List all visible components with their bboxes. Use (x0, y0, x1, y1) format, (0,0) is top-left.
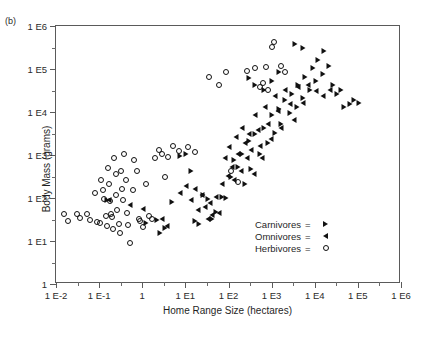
data-point-herbivores (125, 222, 131, 228)
data-point-herbivores (127, 240, 133, 246)
data-point-herbivores (106, 181, 112, 187)
x-axis-tick (315, 282, 316, 288)
data-point-carnivores (266, 140, 271, 146)
data-point-herbivores (165, 154, 171, 160)
data-point-herbivores (149, 216, 155, 222)
data-point-omnivores (184, 183, 189, 189)
data-point-carnivores (155, 217, 160, 223)
data-point-carnivores (293, 41, 298, 47)
data-point-herbivores (123, 177, 129, 183)
data-point-carnivores (294, 104, 299, 110)
x-axis-tick-label: 1 E3 (262, 290, 282, 301)
data-point-carnivores (273, 130, 278, 136)
data-point-herbivores (263, 64, 269, 70)
data-point-carnivores (197, 221, 202, 227)
x-axis-tick-label: 1 E6 (391, 290, 411, 301)
legend-equals-sign: = (305, 231, 311, 242)
data-point-carnivores (320, 71, 325, 77)
y-axis-tick-label: 1 (42, 279, 47, 290)
data-point-omnivores (313, 88, 318, 94)
data-point-herbivores (192, 149, 198, 155)
y-axis-minor-tick (52, 48, 56, 49)
data-point-carnivores (300, 45, 305, 51)
open-circle-icon (323, 245, 329, 251)
x-axis-minor-tick (207, 282, 208, 286)
y-axis-tick (50, 26, 56, 27)
legend-entry-label: Herbivores (255, 243, 301, 254)
data-point-herbivores (92, 190, 98, 196)
data-point-omnivores (192, 186, 197, 192)
data-point-omnivores (202, 204, 207, 210)
data-point-omnivores (320, 93, 325, 99)
y-axis-minor-tick (52, 91, 56, 92)
data-point-carnivores (279, 121, 284, 127)
data-point-herbivores (206, 74, 212, 80)
data-point-omnivores (283, 87, 288, 93)
x-axis-minor-tick (78, 282, 79, 286)
data-point-herbivores (260, 80, 266, 86)
data-point-herbivores (271, 39, 277, 45)
data-point-carnivores (224, 195, 229, 201)
x-axis-tick (56, 282, 57, 288)
data-point-herbivores (97, 220, 103, 226)
x-axis-tick (99, 282, 100, 288)
data-point-omnivores (248, 147, 253, 153)
data-point-carnivores (257, 151, 262, 157)
x-axis-tick-label: 1 (140, 290, 145, 301)
data-point-herbivores (170, 143, 176, 149)
y-axis-title: Body Mass (grams) (41, 126, 52, 213)
data-point-omnivores (229, 164, 234, 170)
legend-entry-omnivores: Omnivores= (255, 230, 331, 242)
data-point-carnivores (248, 166, 253, 172)
data-point-carnivores (296, 82, 301, 88)
triangle-left-icon (323, 233, 328, 239)
data-point-herbivores (162, 174, 168, 180)
x-axis-tick-label: 1 E1 (176, 290, 196, 301)
data-point-carnivores (290, 91, 295, 97)
y-axis-tick (50, 112, 56, 113)
data-point-carnivores (210, 216, 215, 222)
legend-entry-carnivores: Carnivores= (255, 218, 331, 230)
data-point-herbivores (143, 181, 149, 187)
x-axis-tick-label: 1 E-2 (45, 290, 68, 301)
data-point-herbivores (113, 192, 119, 198)
data-point-omnivores (247, 131, 252, 137)
data-point-omnivores (292, 117, 297, 123)
x-axis-minor-tick (121, 282, 122, 286)
data-point-omnivores (223, 155, 228, 161)
data-point-herbivores (152, 155, 158, 161)
y-axis-tick-label: 1 E5 (27, 64, 47, 75)
data-point-omnivores (273, 93, 278, 99)
data-point-carnivores (104, 197, 109, 203)
y-axis-minor-tick (52, 134, 56, 135)
data-point-carnivores (342, 104, 347, 110)
data-point-carnivores (300, 95, 305, 101)
data-point-carnivores (261, 125, 266, 131)
data-point-carnivores (316, 57, 321, 63)
legend-entry-label: Omnivores (255, 231, 301, 242)
data-point-omnivores (178, 190, 183, 196)
legend-equals-sign: = (305, 219, 311, 230)
data-point-herbivores (100, 187, 106, 193)
data-layer (56, 26, 399, 282)
data-point-carnivores (247, 138, 252, 144)
x-axis-minor-tick (336, 282, 337, 286)
x-axis-tick (272, 282, 273, 288)
data-point-carnivores (277, 106, 282, 112)
legend-marker-swatch (321, 221, 331, 227)
data-point-omnivores (196, 207, 201, 213)
data-point-carnivores (169, 199, 174, 205)
y-axis-minor-tick (52, 220, 56, 221)
data-point-carnivores (228, 174, 233, 180)
data-point-herbivores (124, 210, 130, 216)
data-point-herbivores (116, 221, 122, 227)
x-axis-tick (142, 282, 143, 288)
x-axis-minor-tick (379, 282, 380, 286)
data-point-herbivores (117, 230, 123, 236)
x-axis-tick (401, 282, 402, 288)
data-point-carnivores (184, 151, 189, 157)
data-point-carnivores (235, 164, 240, 170)
legend-marker-swatch (321, 245, 331, 251)
data-point-herbivores (216, 82, 222, 88)
data-point-carnivores (313, 78, 318, 84)
